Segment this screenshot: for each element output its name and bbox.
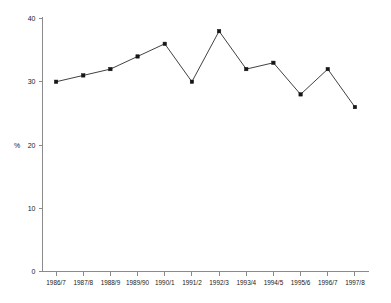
data-point-marker <box>217 29 220 32</box>
data-point-marker <box>326 67 329 70</box>
data-point-marker <box>136 55 139 58</box>
x-tick-label: 1990/1 <box>155 279 175 286</box>
x-tick-label: 1988/9 <box>101 279 121 286</box>
x-tick-label: 1996/7 <box>318 279 338 286</box>
data-point-marker <box>163 42 166 45</box>
data-point-marker <box>109 67 112 70</box>
y-tick-label: 20 <box>28 142 36 149</box>
y-axis-label: % <box>14 142 20 149</box>
x-tick-label: 1995/6 <box>291 279 311 286</box>
y-tick-label: 10 <box>28 205 36 212</box>
line-chart: 010203040%1986/71987/81988/91989/901990/… <box>0 0 391 303</box>
data-point-marker <box>54 80 57 83</box>
series-line <box>56 31 355 107</box>
data-point-marker <box>82 74 85 77</box>
data-point-marker <box>353 105 356 108</box>
y-tick-label: 40 <box>28 15 36 22</box>
data-point-marker <box>190 80 193 83</box>
x-tick-label: 1992/3 <box>209 279 229 286</box>
x-tick-label: 1986/7 <box>46 279 66 286</box>
x-tick-label: 1987/8 <box>73 279 93 286</box>
x-tick-label: 1991/2 <box>182 279 202 286</box>
x-tick-label: 1997/8 <box>345 279 365 286</box>
chart-container: 010203040%1986/71987/81988/91989/901990/… <box>0 0 391 303</box>
x-tick-label: 1994/5 <box>264 279 284 286</box>
data-point-marker <box>245 67 248 70</box>
data-point-marker <box>299 93 302 96</box>
x-tick-label: 1993/4 <box>236 279 256 286</box>
y-tick-label: 30 <box>28 78 36 85</box>
x-tick-label: 1989/90 <box>126 279 150 286</box>
y-tick-label: 0 <box>32 268 36 275</box>
data-point-marker <box>272 61 275 64</box>
